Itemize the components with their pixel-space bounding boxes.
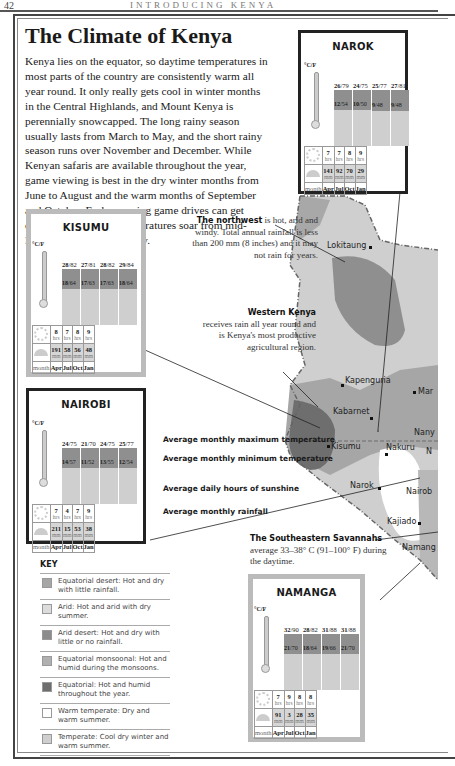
key-item: Equatorial desert: Hot and dry with litt… (40, 573, 170, 599)
max-temp-value: 25/77 (372, 82, 387, 89)
rainfall-mm: 35mm (305, 709, 316, 727)
thermometer-icon (314, 72, 319, 124)
unit-label: °C/F (32, 241, 44, 247)
climate-table: 8hrs7hrs8hrs9hrs191mm58mm56mm48mmmonthAp… (32, 325, 95, 374)
max-temp-value: 32/90 (284, 626, 299, 633)
min-temp-bar (100, 289, 118, 325)
rainfall-mm: 53mm (72, 523, 83, 541)
month-cell: Apr (50, 541, 62, 553)
town-label: Narok (350, 481, 374, 490)
chart-title: KISUMU (31, 222, 141, 233)
key-label: Arid desert: Hot and dry with little or … (58, 629, 170, 647)
min-temp-bar (119, 289, 137, 325)
min-temp-bar (119, 468, 137, 504)
month-label: month (33, 541, 51, 553)
key-swatch (42, 656, 52, 666)
key-item: Equatorial monsoonal: Hot and humid duri… (40, 651, 170, 677)
legend-min-temp: Average monthly minimum temperature (163, 454, 333, 464)
unit-label: °C/F (304, 62, 316, 68)
legend-max-temp: Average monthly maximum temperature (163, 435, 335, 445)
month-cell: Jul (334, 183, 344, 195)
key-label: Warm temperate: Dry and warm summer. (58, 707, 170, 725)
rainfall-mm: 58mm (62, 344, 72, 362)
thermometer-bulb (39, 299, 48, 308)
rainfall-mm: 211mm (50, 523, 62, 541)
town-label: Kisumu (331, 442, 361, 451)
month-cell: Jul (62, 541, 72, 553)
chart-title: NAIROBI (29, 399, 143, 410)
chart-title: NAROK (301, 41, 405, 52)
max-temp-value: 28/82 (100, 261, 115, 268)
town-dot (413, 391, 416, 394)
climate-table: 7hrs7hrs8hrs9hrs141mm92mm70mm29mmmonthAp… (304, 146, 367, 195)
town-dot (341, 384, 344, 387)
month-cell: Oct (72, 541, 83, 553)
min-temp-value: 17/63 (81, 280, 95, 286)
max-temp-value: 24/75 (353, 82, 368, 89)
key-label: Equatorial: Hot and humid throughout the… (58, 681, 170, 699)
running-head: INTRODUCING KENYA (130, 0, 276, 10)
sunshine-hours: 4hrs (62, 505, 72, 523)
max-temp-value: 31/88 (341, 626, 356, 633)
town-dot (378, 487, 381, 490)
key-swatch (42, 630, 52, 640)
annotation-western-kenya: Western Kenyareceives rain all year roun… (200, 307, 316, 353)
min-temp-bar (334, 110, 352, 146)
min-temp-bar (100, 468, 118, 504)
rainfall-mm: 28mm (294, 709, 305, 727)
max-temp-value: 26/79 (334, 82, 349, 89)
min-temp-bar (284, 654, 302, 690)
min-temp-bar (353, 110, 371, 146)
month-label: month (33, 362, 51, 374)
month-cell: Jul (62, 362, 72, 374)
min-temp-value: 14/57 (62, 459, 76, 465)
page-title: The Climate of Kenya (25, 23, 232, 49)
min-temp-bar (341, 654, 359, 690)
min-temp-bar (81, 289, 99, 325)
town-dot (418, 522, 421, 525)
min-temp-value: 10/50 (353, 101, 367, 107)
key-label: Equatorial desert: Hot and dry with litt… (58, 577, 170, 595)
month-cell: Jan (83, 362, 94, 374)
key-swatch (42, 734, 52, 744)
max-temp-value: 25/77 (119, 440, 134, 447)
town-dot (370, 417, 373, 420)
month-cell: Apr (50, 362, 62, 374)
key-label: Arid: Hot and arid with dry summer. (58, 603, 170, 621)
town-label: Nany (414, 428, 435, 437)
key-item: Temperate: Cool dry winter and warm summ… (40, 729, 170, 756)
annotation-southeast: The Southeastern Savannahsaverage 33–38°… (250, 533, 390, 568)
key-label: Temperate: Cool dry winter and warm summ… (58, 733, 170, 751)
sun-icon (34, 506, 48, 520)
rainfall-mm: 48mm (83, 344, 94, 362)
month-cell: Oct (344, 183, 355, 195)
max-temp-value: 21/70 (81, 440, 96, 447)
min-temp-value: 12/54 (334, 101, 348, 107)
max-temp-value: 31/88 (322, 626, 337, 633)
max-temp-value: 29/84 (119, 261, 134, 268)
month-cell: Jan (83, 541, 94, 553)
rainfall-mm: 15mm (62, 523, 72, 541)
sun-icon (256, 692, 270, 706)
thermometer-icon (42, 251, 47, 303)
min-temp-value: 21/70 (341, 645, 355, 651)
chart-title: NAMANGA (253, 587, 360, 598)
sunshine-hours: 9hrs (284, 691, 294, 709)
min-temp-value: 11/52 (81, 459, 94, 465)
town-label: Mar (418, 387, 433, 396)
key-swatch (42, 682, 52, 692)
max-temp-bar (322, 634, 340, 654)
rainfall-mm: 3mm (284, 709, 294, 727)
legend-sunshine: Average daily hours of sunshine (163, 484, 299, 494)
month-cell: Apr (272, 727, 284, 739)
town-label: Nairob (406, 487, 432, 496)
thermometer-icon (42, 430, 47, 482)
min-temp-bar (62, 289, 80, 325)
min-temp-value: 13/55 (100, 459, 114, 465)
thermometer-bulb (311, 120, 320, 129)
umbrella-icon (306, 170, 320, 177)
town-label: Kapenguria (345, 376, 391, 385)
climate-table: 7hrs4hrs7hrs9hrs211mm15mm53mm38mmmonthAp… (32, 504, 95, 553)
min-temp-value: 19/66 (322, 645, 336, 651)
month-label: month (255, 727, 273, 739)
